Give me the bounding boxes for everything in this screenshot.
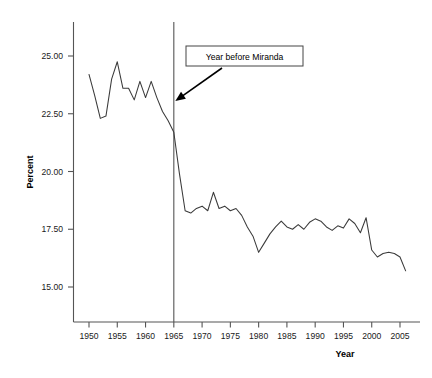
- y-tick-label: 17.50: [41, 224, 63, 234]
- y-tick-label: 22.50: [41, 109, 63, 119]
- annotation-label: Year before Miranda: [206, 52, 284, 62]
- axes-group: [74, 22, 421, 322]
- x-tick-label: 1955: [108, 331, 127, 341]
- x-tick-label: 1990: [306, 331, 325, 341]
- x-tick-label: 1985: [277, 331, 296, 341]
- y-axis-title: Percent: [25, 155, 35, 188]
- x-axis-tick-labels: 1950195519601965197019751980198519901995…: [79, 331, 409, 341]
- x-tick-label: 1995: [334, 331, 353, 341]
- y-axis-tick-labels: 15.0017.5020.0022.5025.00: [41, 51, 63, 292]
- chart-figure: 15.0017.5020.0022.5025.00 19501955196019…: [0, 0, 432, 378]
- percent-series-line: [89, 62, 406, 271]
- x-tick-label: 1980: [249, 331, 268, 341]
- x-tick-label: 1975: [221, 331, 240, 341]
- y-tick-label: 25.00: [41, 51, 63, 61]
- x-axis-ticks: [89, 322, 400, 328]
- line-chart-canvas: 15.0017.5020.0022.5025.00 19501955196019…: [0, 0, 432, 378]
- annotation-arrow-line: [182, 68, 222, 96]
- y-tick-label: 15.00: [41, 282, 63, 292]
- x-tick-label: 1960: [136, 331, 155, 341]
- x-axis-title: Year: [335, 349, 355, 359]
- y-axis-ticks: [68, 56, 74, 287]
- annotation-callout: Year before Miranda: [175, 46, 303, 101]
- x-tick-label: 1965: [164, 331, 183, 341]
- x-tick-label: 2005: [390, 331, 409, 341]
- annotation-arrow-head: [175, 92, 186, 101]
- y-tick-label: 20.00: [41, 167, 63, 177]
- x-tick-label: 2000: [362, 331, 381, 341]
- x-tick-label: 1950: [79, 331, 98, 341]
- x-tick-label: 1970: [193, 331, 212, 341]
